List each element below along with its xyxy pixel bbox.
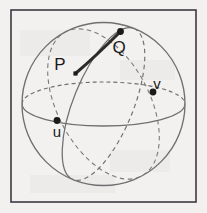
point-marker-p <box>73 71 77 75</box>
point-label-u: u <box>53 123 61 140</box>
point-label-v: v <box>153 75 161 92</box>
point-label-p: P <box>54 55 65 74</box>
sphere-diagram-figure: P Q u v <box>0 0 207 213</box>
sphere-diagram-canvas: P Q u v <box>0 0 207 213</box>
point-marker-q <box>117 28 124 35</box>
point-label-q: Q <box>112 38 125 57</box>
